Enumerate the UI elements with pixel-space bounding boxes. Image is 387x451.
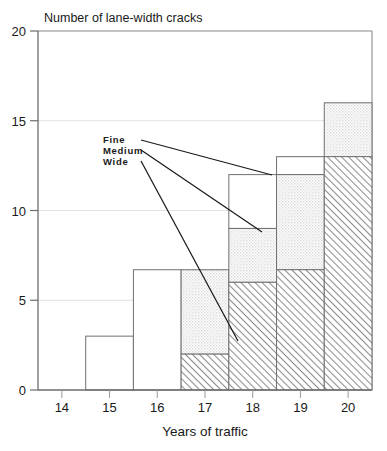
y-tick-label: 20 xyxy=(12,24,26,39)
x-tick-label: 17 xyxy=(198,400,212,415)
bar-segment-fine xyxy=(229,175,277,229)
x-tick-label: 18 xyxy=(245,400,259,415)
x-tick-label: 14 xyxy=(55,400,69,415)
bar-segment-wide xyxy=(324,157,372,390)
x-tick-label: 20 xyxy=(341,400,355,415)
legend-label-medium: Medium xyxy=(103,145,143,156)
x-axis-title: Years of traffic xyxy=(162,424,248,439)
bar-segment-fine xyxy=(133,270,181,390)
bar-group-15 xyxy=(86,336,134,390)
bar-segment-wide xyxy=(277,270,325,390)
y-tick-label: 0 xyxy=(19,383,26,398)
x-tick-label: 16 xyxy=(150,400,164,415)
bar-segment-wide xyxy=(181,354,229,390)
bar-segment-fine xyxy=(277,157,325,175)
y-tick-label: 15 xyxy=(12,114,26,129)
bar-chart-svg: 20 15 10 5 0 14 15 16 17 18 19 20 Number… xyxy=(0,0,387,451)
bar-group-16 xyxy=(133,270,181,390)
bar-segment-medium xyxy=(324,103,372,157)
x-tick-label: 19 xyxy=(293,400,307,415)
chart-container: 20 15 10 5 0 14 15 16 17 18 19 20 Number… xyxy=(0,0,387,451)
bar-group-20 xyxy=(324,103,372,390)
legend-label-wide: Wide xyxy=(103,156,128,167)
y-tick-label: 10 xyxy=(12,204,26,219)
bar-group-17 xyxy=(181,270,229,390)
bar-segment-fine xyxy=(86,336,134,390)
bar-segment-medium xyxy=(229,228,277,282)
chart-title: Number of lane-width cracks xyxy=(44,11,202,25)
x-tick-label: 15 xyxy=(102,400,116,415)
legend-label-fine: Fine xyxy=(103,134,125,145)
bar-group-18 xyxy=(229,175,277,390)
bar-group-19 xyxy=(277,157,325,390)
bar-segment-medium xyxy=(277,175,325,270)
y-tick-label: 5 xyxy=(19,293,26,308)
